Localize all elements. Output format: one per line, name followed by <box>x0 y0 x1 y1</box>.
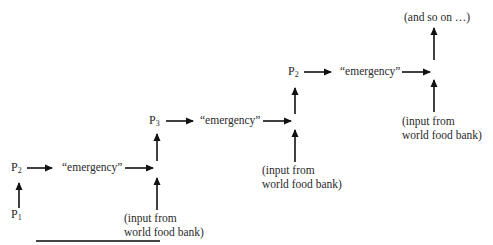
emergency-label-2: “emergency” <box>200 114 260 127</box>
input-label-1-line1: (input from <box>124 212 177 225</box>
emergency-label-1: “emergency” <box>62 161 122 174</box>
emergency-label-3: “emergency” <box>340 65 400 78</box>
node-p1: P1 <box>11 207 22 225</box>
input-label-3-line2: world food bank) <box>402 129 482 142</box>
input-label-3-line1: (input from <box>402 115 455 128</box>
input-label-2-line2: world food bank) <box>262 178 342 191</box>
node-p2-second: P2 <box>288 64 299 82</box>
node-p3: P3 <box>149 113 160 131</box>
input-label-2-line1: (input from <box>262 164 315 177</box>
node-p2-first: P2 <box>11 160 22 178</box>
input-label-1-line2: world food bank) <box>124 226 204 239</box>
continuation-label: (and so on …) <box>404 11 470 24</box>
bottom-rule <box>36 240 160 242</box>
